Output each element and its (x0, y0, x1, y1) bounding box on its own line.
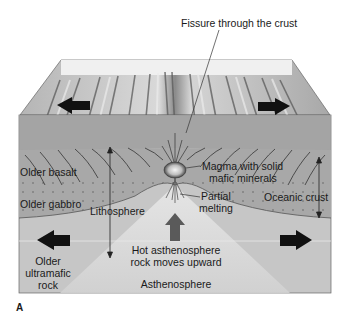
label-partial-line2: melting (199, 202, 233, 214)
label-older-line1: Older (35, 255, 61, 267)
seafloor-spreading-diagram: Fissure through the crust Older basalt O… (0, 0, 350, 316)
label-oceanic-crust: Oceanic crust (264, 191, 328, 203)
label-older-line2: ultramafic (25, 267, 71, 279)
magma-chamber (164, 162, 186, 178)
label-older-gabbro: Older gabbro (20, 198, 81, 210)
label-partial-line1: Partial (201, 190, 231, 202)
label-hot-line2: rock moves upward (130, 256, 221, 268)
label-magma-line1: Magma with solid (202, 160, 283, 172)
surface-sky-strip (61, 60, 292, 75)
label-lithosphere: Lithosphere (90, 205, 145, 217)
label-hot-line1: Hot asthenosphere (132, 244, 221, 256)
label-older-line3: rock (38, 279, 59, 291)
label-older-basalt: Older basalt (20, 166, 77, 178)
label-asthenosphere: Asthenosphere (141, 278, 212, 290)
figure-panel-letter: A (16, 302, 23, 313)
label-magma-line2: mafic minerals (209, 172, 277, 184)
label-fissure: Fissure through the crust (181, 17, 297, 29)
